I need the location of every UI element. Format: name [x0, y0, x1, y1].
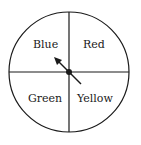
section-label-yellow: Yellow — [76, 92, 113, 105]
spinner-pivot — [66, 69, 72, 75]
section-label-blue: Blue — [33, 38, 58, 51]
section-label-green: Green — [28, 92, 62, 105]
section-label-red: Red — [83, 38, 105, 51]
spinner-diagram: Blue Red Green Yellow — [0, 0, 141, 145]
